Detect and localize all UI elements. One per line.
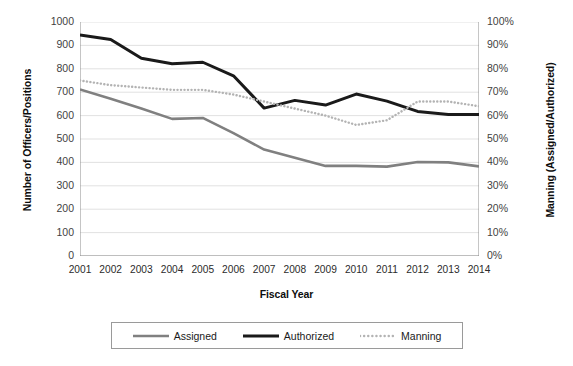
y-axis-left-tick: 800 xyxy=(34,63,74,74)
y-axis-right-tick: 0% xyxy=(487,250,531,261)
y-axis-left-tick: 200 xyxy=(34,203,74,214)
line-swatch-authorized xyxy=(243,331,279,341)
chart-legend: AssignedAuthorizedManning xyxy=(111,322,463,349)
legend-item-manning[interactable]: Manning xyxy=(360,330,441,342)
legend-item-assigned[interactable]: Assigned xyxy=(133,330,217,342)
line-swatch-assigned xyxy=(133,331,169,341)
y-axis-right-tick: 10% xyxy=(487,227,531,238)
line-swatch-manning xyxy=(360,331,396,341)
y-axis-left-title: Number of Officers/Positions xyxy=(21,20,33,260)
plot-area xyxy=(80,22,479,256)
x-axis-title: Fiscal Year xyxy=(0,288,573,300)
y-axis-left-tick: 100 xyxy=(34,227,74,238)
legend-label: Manning xyxy=(401,330,441,342)
y-axis-right-tick: 80% xyxy=(487,63,531,74)
y-axis-right-tick: 60% xyxy=(487,110,531,121)
y-axis-left-tick: 700 xyxy=(34,86,74,97)
legend-item-authorized[interactable]: Authorized xyxy=(243,330,334,342)
y-axis-left-tick: 400 xyxy=(34,156,74,167)
plot-svg xyxy=(80,22,479,256)
y-axis-right-tick: 70% xyxy=(487,86,531,97)
y-axis-left-tick: 1000 xyxy=(34,16,74,27)
line-chart: Number of Officers/Positions Manning (As… xyxy=(0,0,573,366)
y-axis-right-tick: 100% xyxy=(487,16,531,27)
y-axis-left-tick: 600 xyxy=(34,110,74,121)
y-axis-right-tick: 40% xyxy=(487,156,531,167)
y-axis-left-tick: 0 xyxy=(34,250,74,261)
y-axis-left-tick: 300 xyxy=(34,180,74,191)
y-axis-right-tick: 30% xyxy=(487,180,531,191)
y-axis-right-tick: 50% xyxy=(487,133,531,144)
legend-label: Authorized xyxy=(284,330,334,342)
y-axis-right-title: Manning (Assigned/Authorized) xyxy=(544,20,556,260)
x-axis-tick: 2014 xyxy=(459,265,499,275)
y-axis-left-tick: 900 xyxy=(34,39,74,50)
legend-label: Assigned xyxy=(174,330,217,342)
y-axis-right-tick: 20% xyxy=(487,203,531,214)
y-axis-right-tick: 90% xyxy=(487,39,531,50)
y-axis-left-tick: 500 xyxy=(34,133,74,144)
